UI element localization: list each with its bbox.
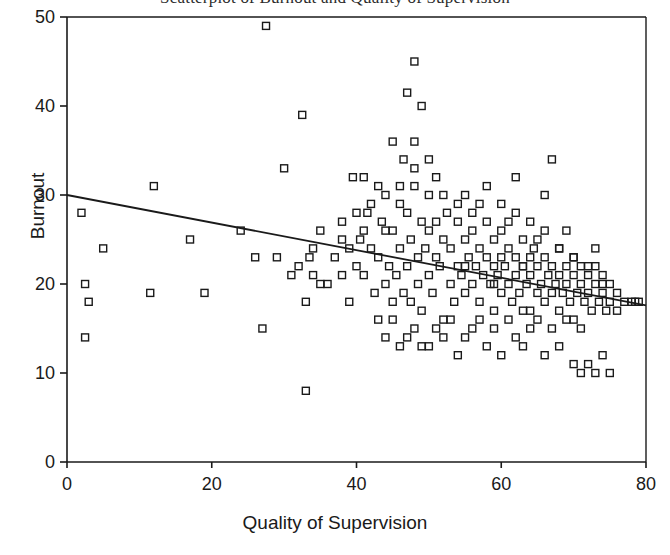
scatter-point: [331, 254, 338, 261]
scatter-point: [541, 298, 548, 305]
scatter-point: [519, 263, 526, 270]
scatter-point: [614, 289, 621, 296]
scatter-point: [567, 298, 574, 305]
x-tick-label: 80: [636, 474, 656, 494]
scatter-point: [411, 58, 418, 65]
scatter-point: [516, 289, 523, 296]
scatter-point: [364, 209, 371, 216]
scatter-point: [462, 334, 469, 341]
scatter-point: [295, 263, 302, 270]
scatter-point: [339, 272, 346, 279]
scatter-point: [393, 272, 400, 279]
scatter-point: [476, 316, 483, 323]
scatter-point: [433, 174, 440, 181]
scatter-point: [556, 272, 563, 279]
scatter-point: [592, 281, 599, 288]
scatter-point: [556, 307, 563, 314]
scatter-point: [592, 263, 599, 270]
x-axis-title: Quality of Supervision: [0, 512, 670, 534]
scatter-point: [263, 22, 270, 29]
scatter-point: [476, 298, 483, 305]
scatter-point: [447, 245, 454, 252]
scatter-point: [425, 192, 432, 199]
scatter-point: [505, 245, 512, 252]
scatter-point: [78, 209, 85, 216]
scatter-point: [302, 387, 309, 394]
y-axis-title: Burnout: [27, 146, 49, 266]
scatter-point: [302, 298, 309, 305]
scatter-point: [288, 272, 295, 279]
scatter-point: [563, 316, 570, 323]
scatter-point: [396, 245, 403, 252]
scatter-point: [382, 281, 389, 288]
scatter-point: [317, 227, 324, 234]
scatter-point: [82, 334, 89, 341]
scatter-point: [433, 254, 440, 261]
scatter-point: [353, 263, 360, 270]
scatter-point: [545, 272, 552, 279]
scatter-point: [415, 254, 422, 261]
y-tick-label: 20: [35, 274, 55, 294]
scatter-point: [310, 272, 317, 279]
scatter-point: [360, 227, 367, 234]
scatter-point: [378, 218, 385, 225]
scatter-point: [491, 325, 498, 332]
scatter-point: [595, 298, 602, 305]
scatter-point: [519, 307, 526, 314]
scatter-point: [389, 316, 396, 323]
scatter-point: [389, 227, 396, 234]
scatter-point: [483, 254, 490, 261]
scatter-point: [534, 236, 541, 243]
scatter-point: [469, 325, 476, 332]
scatter-point: [541, 352, 548, 359]
scatter-point: [440, 316, 447, 323]
scatter-point: [317, 281, 324, 288]
scatter-point: [454, 352, 461, 359]
scatter-point: [150, 183, 157, 190]
scatter-point: [425, 227, 432, 234]
scatter-point: [411, 325, 418, 332]
scatter-point: [527, 325, 534, 332]
scatter-point: [498, 200, 505, 207]
scatter-point: [534, 263, 541, 270]
scatter-point: [396, 343, 403, 350]
scatter-point: [299, 111, 306, 118]
scatter-point: [382, 334, 389, 341]
scatter-point: [400, 289, 407, 296]
scatter-point: [476, 245, 483, 252]
scatter-point: [585, 263, 592, 270]
scatter-point: [585, 361, 592, 368]
scatter-point: [469, 281, 476, 288]
scatter-point: [462, 236, 469, 243]
scatter-point: [404, 263, 411, 270]
scatter-point: [483, 218, 490, 225]
scatter-point: [483, 343, 490, 350]
scatter-point: [483, 183, 490, 190]
scatter-point: [585, 272, 592, 279]
scatter-point: [527, 218, 534, 225]
scatter-point: [462, 263, 469, 270]
scatter-point: [512, 272, 519, 279]
scatter-point: [563, 227, 570, 234]
scatter-point: [577, 281, 584, 288]
scatter-point: [310, 245, 317, 252]
scatter-point: [541, 192, 548, 199]
scatter-point: [440, 236, 447, 243]
scatter-point: [339, 236, 346, 243]
scatter-point: [588, 307, 595, 314]
scatter-point: [454, 200, 461, 207]
scatter-point: [440, 334, 447, 341]
scatter-point: [606, 370, 613, 377]
scatter-point: [512, 209, 519, 216]
scatter-point: [418, 307, 425, 314]
scatter-point: [603, 307, 610, 314]
scatter-point: [570, 316, 577, 323]
scatter-point: [534, 289, 541, 296]
scatter-point: [570, 254, 577, 261]
scatter-point: [491, 307, 498, 314]
scatter-point: [339, 218, 346, 225]
scatter-point: [509, 298, 516, 305]
scatter-point: [556, 245, 563, 252]
scatter-point: [563, 263, 570, 270]
scatter-point: [472, 263, 479, 270]
